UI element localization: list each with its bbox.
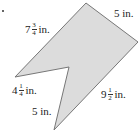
label-unit: in. xyxy=(122,8,133,19)
fraction-numerator: 3 xyxy=(32,22,36,29)
label-whole: 4 xyxy=(12,85,18,96)
label-unit: in. xyxy=(115,89,126,100)
label-bottom-right-side: 9 1 2 in. xyxy=(101,87,126,102)
fraction-numerator: 1 xyxy=(19,83,23,90)
label-unit: in. xyxy=(40,106,51,117)
label-top-right-side: 5 in. xyxy=(114,8,134,19)
label-unit: in. xyxy=(26,85,37,96)
shape-diagram xyxy=(0,0,139,134)
label-unit: in. xyxy=(39,24,50,35)
label-whole: 9 xyxy=(101,89,107,100)
fraction-denominator: 4 xyxy=(32,30,36,37)
label-whole: 7 xyxy=(25,24,31,35)
label-fraction: 1 4 xyxy=(19,83,24,98)
label-notch-lower-side: 5 in. xyxy=(32,106,52,117)
label-whole: 5 xyxy=(32,106,38,117)
label-notch-upper-side: 4 1 4 in. xyxy=(12,83,37,98)
label-fraction: 3 4 xyxy=(32,22,37,37)
fraction-denominator: 2 xyxy=(108,95,112,102)
label-whole: 5 xyxy=(114,8,120,19)
fraction-numerator: 1 xyxy=(108,87,112,94)
label-fraction: 1 2 xyxy=(108,87,113,102)
fraction-denominator: 4 xyxy=(19,91,23,98)
label-top-left-side: 7 3 4 in. xyxy=(25,22,50,37)
